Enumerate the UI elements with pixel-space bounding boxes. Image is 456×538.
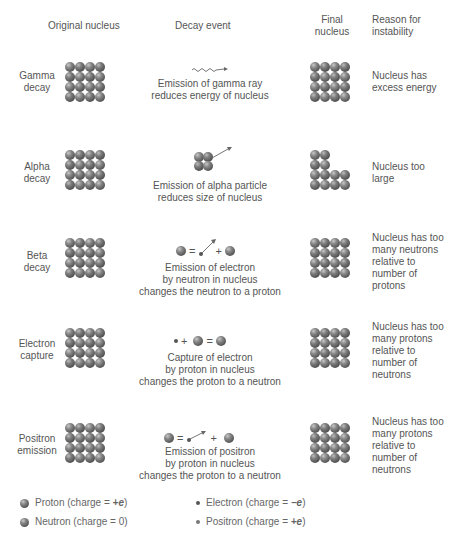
- nucleon-sphere: [75, 160, 85, 170]
- nucleon-sphere: [95, 180, 105, 190]
- reason-line: number of: [372, 268, 456, 280]
- description-line: Emission of alpha particle: [110, 180, 310, 192]
- row-label-line: Alpha: [10, 161, 64, 173]
- row-label-line: decay: [10, 173, 64, 185]
- nucleon-sphere: [340, 92, 350, 102]
- nucleon-sphere: [95, 338, 105, 348]
- nucleon-sphere: [65, 72, 75, 82]
- row-label-line: emission: [10, 445, 64, 457]
- nucleon-sphere: [340, 82, 350, 92]
- nucleon-sphere: [320, 433, 330, 443]
- nucleon-sphere: [75, 443, 85, 453]
- nucleon-sphere: [340, 338, 350, 348]
- nucleon-sphere: [320, 92, 330, 102]
- positron-emission-equation: = +: [164, 431, 234, 445]
- nucleon-sphere: [330, 238, 340, 248]
- neutron-icon: [176, 246, 186, 256]
- row-label-beta: Beta decay: [10, 250, 64, 274]
- nucleon-sphere: [330, 92, 340, 102]
- nucleon-sphere: [320, 258, 330, 268]
- nucleon-sphere: [75, 92, 85, 102]
- nucleon-sphere: [85, 433, 95, 443]
- reason-line: Nucleus has too: [372, 416, 456, 428]
- nucleon-sphere: [340, 328, 350, 338]
- reason-line: relative to: [372, 256, 456, 268]
- nucleon-sphere: [310, 358, 320, 368]
- nucleon-sphere: [320, 348, 330, 358]
- description-beta: Emission of electron by neutron in nucle…: [110, 262, 310, 298]
- description-gamma: Emission of gamma ray reduces energy of …: [110, 78, 310, 102]
- nucleon-sphere: [320, 443, 330, 453]
- description-line: by proton in nucleus: [110, 458, 310, 470]
- plus-sign: +: [181, 335, 187, 347]
- nucleon-sphere: [320, 170, 330, 180]
- nucleon-sphere: [310, 72, 320, 82]
- nucleon-sphere: [75, 62, 85, 72]
- reason-beta: Nucleus has too many neutrons relative t…: [372, 232, 456, 292]
- final-nucleus-electron-capture: [310, 328, 350, 368]
- nucleon-sphere: [330, 268, 340, 278]
- nucleon-sphere: [95, 92, 105, 102]
- reason-line: number of: [372, 357, 456, 369]
- nucleon-sphere: [75, 268, 85, 278]
- nucleon-sphere: [320, 248, 330, 258]
- nucleon-sphere: [75, 72, 85, 82]
- row-label-line: Positron: [10, 433, 64, 445]
- nucleon-sphere: [65, 268, 75, 278]
- reason-line: protons: [372, 280, 456, 292]
- nucleon-sphere: [95, 238, 105, 248]
- nucleon-sphere: [75, 423, 85, 433]
- reason-line: many neutrons: [372, 244, 456, 256]
- nucleon-sphere: [75, 150, 85, 160]
- nucleon-sphere: [330, 423, 340, 433]
- nucleon-sphere: [65, 160, 75, 170]
- nucleon-sphere: [320, 423, 330, 433]
- nucleon-sphere: [85, 62, 95, 72]
- nucleon-sphere: [320, 238, 330, 248]
- original-nucleus-gamma: [65, 62, 105, 102]
- original-nucleus-positron-emission: [65, 423, 105, 463]
- nucleon-sphere: [65, 328, 75, 338]
- nucleon-sphere: [95, 160, 105, 170]
- nucleon-sphere: [65, 443, 75, 453]
- final-nucleus-positron-emission: [310, 423, 350, 463]
- reason-line: neutrons: [372, 464, 456, 476]
- description-line: Capture of electron: [110, 352, 310, 364]
- nucleon-sphere: [340, 170, 350, 180]
- positron-emission-icon: [186, 431, 204, 445]
- description-line: changes the proton to a neutron: [110, 376, 310, 388]
- equals-sign: =: [189, 245, 195, 257]
- nucleon-sphere: [85, 338, 95, 348]
- description-line: Emission of gamma ray: [110, 78, 310, 90]
- nucleon-sphere: [310, 248, 320, 258]
- header-final-line2: nucleus: [312, 26, 352, 38]
- nucleon-sphere: [320, 160, 330, 170]
- row-label-positron-emission: Positron emission: [10, 433, 64, 457]
- reason-line: many protons: [372, 333, 456, 345]
- nucleon-sphere: [320, 82, 330, 92]
- description-line: changes the neutron to a proton: [110, 286, 310, 298]
- header-final-line1: Final: [312, 14, 352, 26]
- nucleon-sphere: [330, 348, 340, 358]
- nucleon-sphere: [95, 358, 105, 368]
- reason-line: Nucleus too: [372, 161, 456, 173]
- beta-equation: = +: [176, 244, 235, 258]
- description-alpha: Emission of alpha particle reduces size …: [110, 180, 310, 204]
- legend-electron-label: Electron (charge = −e): [206, 497, 306, 509]
- nucleon-sphere: [95, 248, 105, 258]
- nucleon-sphere: [65, 453, 75, 463]
- row-label-electron-capture: Electron capture: [10, 338, 64, 362]
- nucleon-sphere: [85, 423, 95, 433]
- neutron-icon: [20, 518, 29, 527]
- nucleon-sphere: [75, 82, 85, 92]
- reason-gamma: Nucleus has excess energy: [372, 70, 456, 94]
- nucleon-sphere: [310, 180, 320, 190]
- nucleon-sphere: [340, 180, 350, 190]
- reason-line: many protons: [372, 428, 456, 440]
- nucleon-sphere: [85, 82, 95, 92]
- nucleon-sphere: [320, 328, 330, 338]
- row-label-alpha: Alpha decay: [10, 161, 64, 185]
- nucleon-sphere: [320, 268, 330, 278]
- nucleon-sphere: [320, 72, 330, 82]
- nucleon-sphere: [310, 443, 320, 453]
